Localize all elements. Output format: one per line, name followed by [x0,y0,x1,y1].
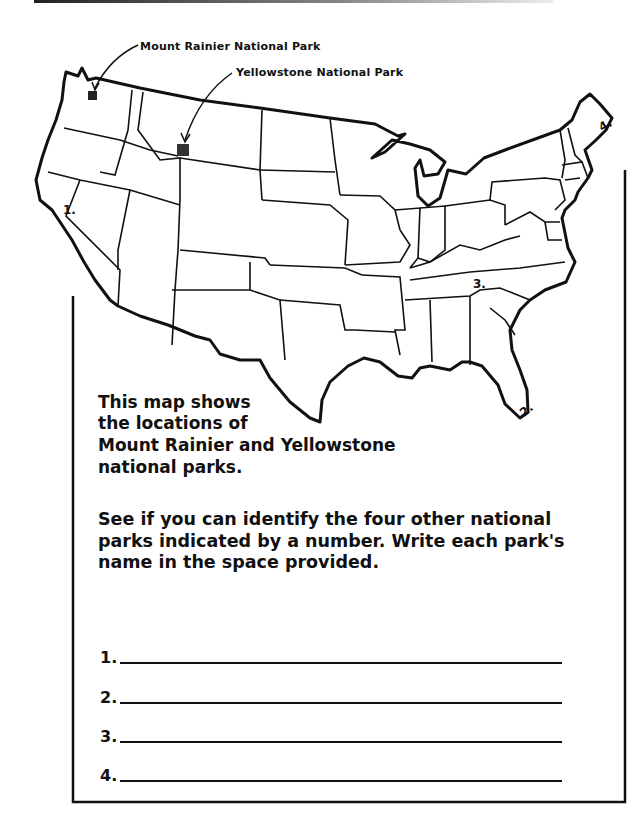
answer-blank-4[interactable] [120,766,562,782]
state-borders [48,90,588,365]
answer-number: 3. [100,728,120,746]
answer-number: 2. [100,689,120,707]
intro-line-3: Mount Rainier and Yellowstone [98,435,396,456]
map-marker-1: 1. [63,203,76,217]
rainier-marker [88,91,97,100]
yellowstone-callout: Yellowstone National Park [236,66,403,79]
intro-line-1: This map shows [98,392,251,413]
answer-row-1[interactable]: 1. [100,645,562,667]
us-outline [36,68,612,422]
answer-number: 1. [100,649,120,667]
answer-row-4[interactable]: 4. [100,763,562,785]
answer-blank-2[interactable] [120,688,562,704]
intro-line-2: the locations of [98,413,248,434]
rainier-callout: Mount Rainier National Park [140,40,321,53]
map-marker-3: 3. [473,277,486,291]
answer-row-3[interactable]: 3. [100,724,562,746]
intro-line-4: national parks. [98,457,242,478]
instructions-text: See if you can identify the four other n… [98,509,578,574]
yellowstone-arrow [185,73,232,140]
yellowstone-marker [177,144,189,156]
answer-blank-1[interactable] [120,648,562,664]
answer-number: 4. [100,767,120,785]
answer-blank-3[interactable] [120,727,562,743]
answer-row-2[interactable]: 2. [100,685,562,707]
